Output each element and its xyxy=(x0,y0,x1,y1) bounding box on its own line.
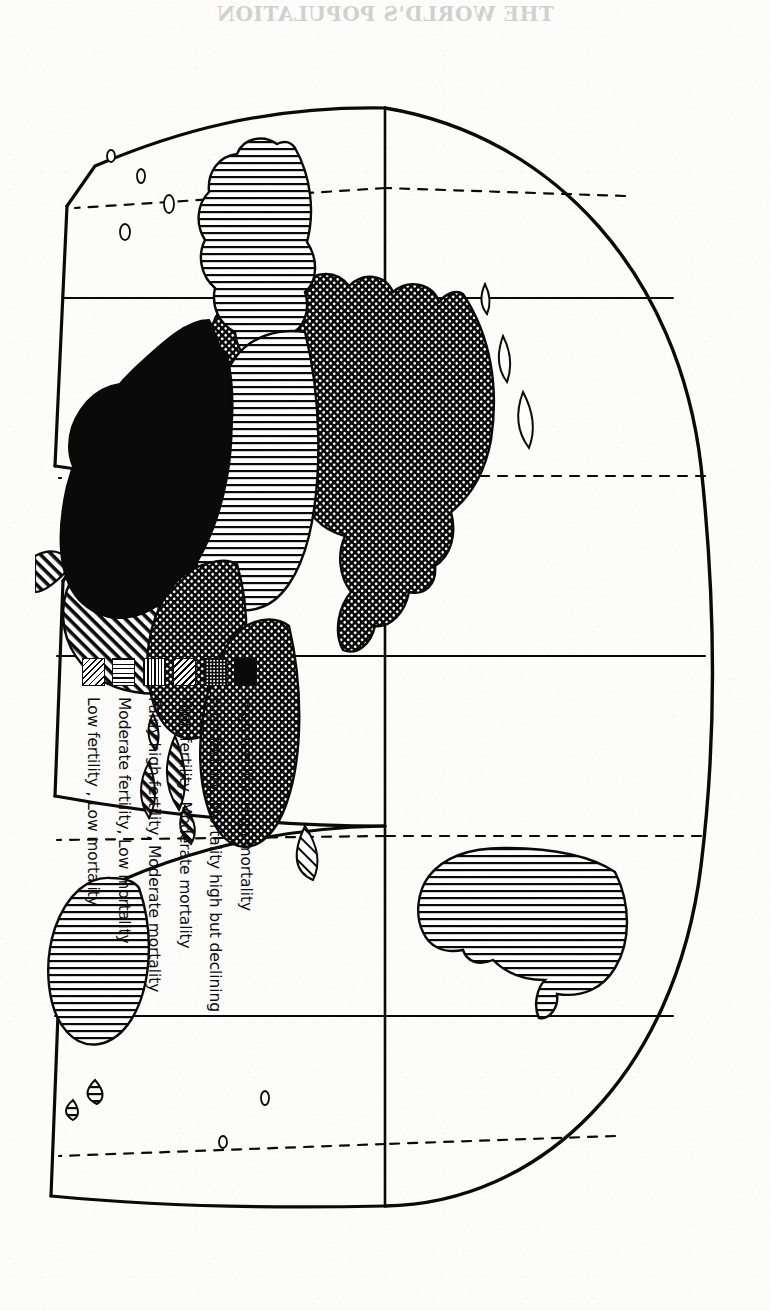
legend-label: High fertility, Moderate mortality xyxy=(176,697,194,949)
legend-swatch-high-fertility-high-mortality xyxy=(235,658,258,686)
legend-item: High fertility, Mortality high but decli… xyxy=(203,658,229,1088)
legend-swatch-high-fertility-moderate-mortality xyxy=(174,658,197,686)
legend-swatch-low-fertility-low-mortality xyxy=(82,658,105,686)
legend-label: Moderate fertility, Low mortality xyxy=(115,697,133,944)
figure-container: High fertility, High mortality High fert… xyxy=(0,0,770,1311)
legend-label: High fertility, High mortality xyxy=(237,697,255,911)
legend-item: Moderate fertility, Low mortality xyxy=(111,658,137,1088)
legend-swatch-fairly-high-fertility-moderate-mortality xyxy=(143,658,166,686)
legend-item: High fertility, Moderate mortality xyxy=(172,658,198,1088)
legend-label: High fertility, Mortality high but decli… xyxy=(207,697,225,1012)
rotated-map-figure: High fertility, High mortality High fert… xyxy=(35,36,735,1276)
legend-swatch-moderate-fertility-low-mortality xyxy=(113,658,136,686)
scanned-page: THE WORLD'S POPULATION represented by co… xyxy=(0,0,770,1311)
legend-swatch-high-fertility-mortality-declining xyxy=(204,658,227,686)
legend-item: Low fertility , Low mortality xyxy=(81,658,107,1088)
map-legend: High fertility, High mortality High fert… xyxy=(76,658,259,1088)
legend-item: High fertility, High mortality xyxy=(233,658,259,1088)
world-map-svg xyxy=(35,36,735,1276)
legend-label: Low fertility , Low mortality xyxy=(85,697,103,906)
legend-label: Fairly high fertility, Moderate mortalit… xyxy=(146,697,164,992)
legend-item: Fairly high fertility, Moderate mortalit… xyxy=(142,658,168,1088)
